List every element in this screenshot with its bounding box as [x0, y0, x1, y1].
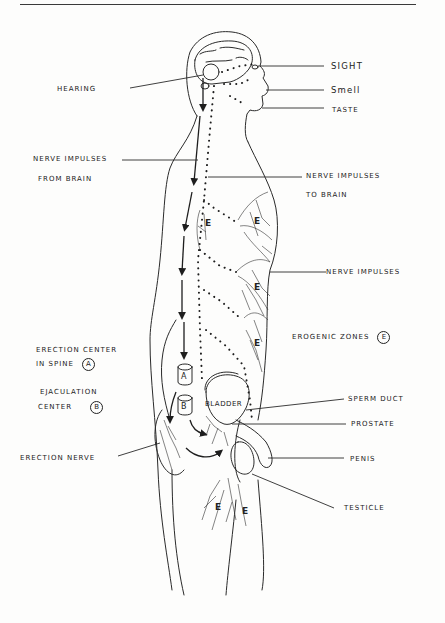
label-ejaculation-center-line1: Ejaculation [40, 386, 97, 399]
label-ejaculation-center-line2: CenterB [38, 401, 103, 414]
label-erection-center-line2: in SpineA [36, 358, 95, 371]
erogenic-zones-circled-marker: E [377, 331, 390, 344]
erogenic-zone-marker: E [254, 338, 260, 348]
label-taste: Taste [332, 104, 359, 117]
erogenic-zone-marker: E [242, 506, 248, 516]
label-prostate: Prostate [351, 418, 395, 431]
label-smell: Smell [331, 84, 361, 97]
label-erection-center-line2-text: in Spine [36, 360, 74, 368]
label-erection-nerve: Erection Nerve [20, 452, 95, 465]
label-sight: Sight [331, 60, 363, 73]
ejaculation-center-circled-marker: B [90, 401, 103, 414]
label-sperm-duct: Sperm Duct [348, 393, 404, 406]
leader-testicle [252, 474, 334, 508]
center-a-marker: A [181, 372, 187, 381]
label-erection-center-line1: Erection Center [36, 344, 117, 357]
label-nerve-impulses: Nerve Impulses [326, 266, 400, 279]
label-nerve-from-brain-line1: Nerve Impulses [33, 153, 107, 166]
erection-center-circled-marker: A [82, 358, 95, 371]
leader-erection-nerve [118, 443, 160, 456]
label-erogenic-zones-text: Erogenic Zones [292, 333, 369, 341]
bladder-label: BLADDER [205, 400, 242, 408]
label-nerve-to-brain-line1: Nerve Impulses [306, 170, 380, 183]
erogenic-zone-marker: E [254, 282, 260, 292]
erogenic-zone-marker: E [205, 218, 211, 228]
label-nerve-to-brain-line2: To Brain [306, 189, 347, 202]
center-b-marker: B [181, 402, 187, 411]
label-nerve-from-brain-line2: From Brain [38, 173, 92, 186]
label-penis: Penis [350, 453, 375, 466]
label-hearing: Hearing [57, 83, 96, 96]
erogenic-zone-marker: E [215, 502, 221, 512]
leader-hearing [130, 75, 203, 88]
erogenic-zone-marker: E [254, 216, 260, 226]
label-testicle: Testicle [344, 502, 385, 515]
label-ejaculation-center-line2-text: Center [38, 403, 72, 411]
label-erogenic-zones: Erogenic ZonesE [292, 331, 390, 344]
